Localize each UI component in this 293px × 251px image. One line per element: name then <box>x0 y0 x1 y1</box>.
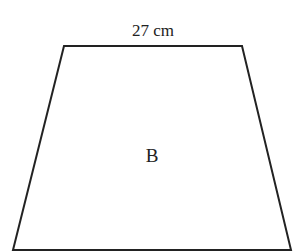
top-side-label: 27 cm <box>132 21 174 40</box>
diagram-svg: 27 cm B <box>0 0 293 251</box>
shape-label-b: B <box>146 145 159 166</box>
trapezoid-diagram: 27 cm B <box>0 0 293 251</box>
